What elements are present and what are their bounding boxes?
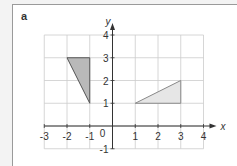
origin-label: 0 [100,128,106,139]
x-tick-label: 4 [201,131,207,142]
coordinate-plane: -3-2-112344321-10xy [0,0,237,166]
x-tick-label: 3 [178,131,184,142]
tick-labels: -3-2-112344321-10xy [40,16,227,155]
x-tick-label: -3 [40,131,49,142]
x-tick-label: -2 [63,131,72,142]
y-tick-label: 2 [103,76,109,87]
axes [44,23,216,149]
y-axis-label: y [105,16,112,27]
x-tick-label: 1 [132,131,138,142]
y-arrow-icon [110,23,115,30]
y-tick-label: 3 [103,53,109,64]
x-tick-label: 2 [155,131,161,142]
x-axis-label: x [220,121,227,132]
y-tick-label: -1 [100,144,109,155]
y-tick-label: 4 [103,30,109,41]
x-arrow-icon [210,124,217,129]
x-tick-label: -1 [85,131,94,142]
y-tick-label: 1 [103,98,109,109]
